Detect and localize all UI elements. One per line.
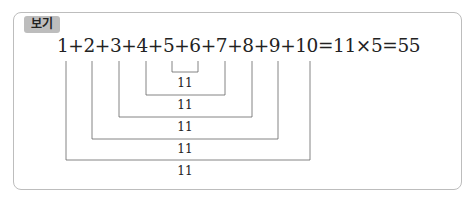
pair-sum-3-8: 11: [170, 120, 200, 134]
pair-sum-4-7: 11: [170, 98, 200, 112]
pair-sum-1-10: 11: [170, 164, 200, 178]
pair-sum-2-9: 11: [170, 142, 200, 156]
pairing-brackets: [0, 0, 474, 197]
pair-sum-5-6: 11: [170, 76, 200, 90]
